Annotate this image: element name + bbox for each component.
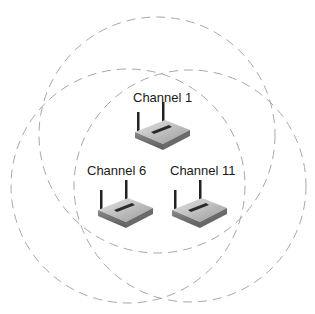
label-channel-11: Channel 11	[170, 163, 236, 178]
router-channel-6-icon	[98, 180, 153, 228]
channel-coverage-diagram: Channel 1 Channel 6 Channel 11	[0, 0, 315, 314]
coverage-circles	[0, 0, 315, 314]
router-channel-11-icon	[172, 180, 227, 228]
label-channel-6: Channel 6	[87, 163, 146, 178]
coverage-circle-channel-6	[11, 69, 245, 303]
label-channel-1: Channel 1	[133, 90, 192, 105]
router-channel-1-icon	[135, 102, 190, 150]
